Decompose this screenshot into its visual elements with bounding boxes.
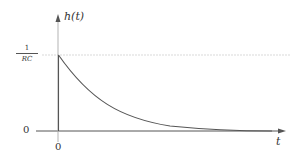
y-axis-arrow-icon (56, 14, 61, 22)
y-axis-label: h(t) (64, 11, 84, 22)
x-axis-label: t (276, 136, 280, 147)
exponential-decay-curve (59, 55, 273, 131)
fraction-numerator: 1 (16, 44, 38, 54)
x-axis-arrow-icon (278, 129, 286, 134)
x-zero-label: 0 (55, 142, 61, 152)
impulse-response-plot (0, 0, 298, 161)
one-over-rc-label: 1 RC (16, 44, 38, 63)
y-zero-label: 0 (23, 125, 29, 135)
fraction-denominator: RC (16, 54, 38, 63)
